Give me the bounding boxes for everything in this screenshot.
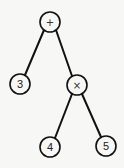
node-3-label: 3 bbox=[17, 78, 23, 90]
edge-times-to-5 bbox=[82, 94, 101, 137]
node-3: 3 bbox=[10, 74, 30, 94]
expression-tree-diagram: + 3 × 4 5 bbox=[0, 0, 124, 168]
node-4-label: 4 bbox=[47, 141, 53, 153]
tree-svg: + 3 × 4 5 bbox=[0, 0, 124, 168]
node-4: 4 bbox=[40, 137, 60, 157]
edge-plus-to-3 bbox=[25, 30, 44, 75]
edge-times-to-4 bbox=[55, 94, 72, 138]
node-plus-label: + bbox=[46, 17, 54, 28]
node-plus: + bbox=[40, 12, 60, 32]
node-times: × bbox=[67, 75, 87, 95]
node-times-label: × bbox=[73, 80, 81, 91]
node-5-label: 5 bbox=[103, 140, 109, 152]
edges bbox=[25, 30, 101, 138]
node-5: 5 bbox=[96, 136, 116, 156]
edge-plus-to-times bbox=[56, 30, 72, 76]
